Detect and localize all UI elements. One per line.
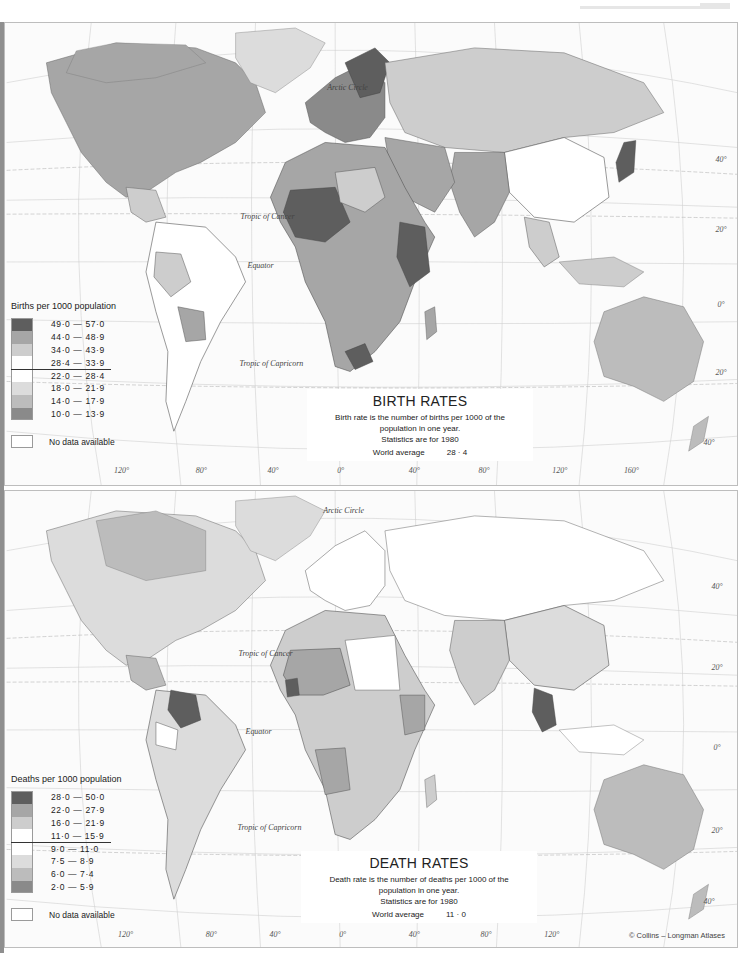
arctic-circle-label: Arctic Circle (322, 506, 364, 515)
svg-text:0°: 0° (714, 743, 722, 752)
equator-label: Equator (247, 261, 275, 270)
legend-item: 28·4 — 33·9 (11, 356, 161, 369)
svg-text:0°: 0° (718, 300, 726, 309)
svg-text:120°: 120° (118, 930, 134, 939)
legend-world-average-divider (11, 369, 111, 370)
australia (594, 297, 704, 402)
tropic-capricorn-label: Tropic of Capricorn (238, 823, 302, 832)
asia-north (385, 48, 664, 153)
legend-item: 6·0 — 7·4 (11, 868, 161, 881)
header-rule (580, 6, 700, 9)
legend-item: 16·0 — 21·9 (11, 817, 161, 830)
legend-item: 10·0 — 13·9 (11, 408, 161, 421)
legend-item: 14·0 — 17·9 (11, 395, 161, 408)
china (504, 138, 609, 223)
svg-text:20°: 20° (716, 368, 728, 377)
svg-text:40°: 40° (267, 466, 279, 475)
tropic-capricorn-label: Tropic of Capricorn (240, 359, 304, 368)
birth-rates-info-box: BIRTH RATES Birth rate is the number of … (307, 389, 533, 461)
copyright-notice: © Collins – Longman Atlases (629, 931, 725, 940)
legend-title: Deaths per 1000 population (11, 774, 161, 784)
svg-text:40°: 40° (712, 582, 724, 591)
birth-rates-map: Arctic Circle Tropic of Cancer Equator T… (4, 22, 738, 486)
svg-text:0°: 0° (337, 466, 345, 475)
death-rates-info-box: DEATH RATES Death rate is the number of … (301, 851, 537, 923)
svg-text:20°: 20° (712, 663, 724, 672)
svg-text:20°: 20° (712, 826, 724, 835)
legend-item: 11·0 — 15·9 (11, 829, 161, 842)
japan (616, 140, 636, 182)
legend-item: 22·0 — 27·9 (11, 804, 161, 817)
svg-text:20°: 20° (716, 225, 728, 234)
legend-no-data: No data available (11, 908, 161, 921)
legend-item: 44·0 — 48·9 (11, 331, 161, 344)
page-number (700, 3, 730, 9)
svg-text:80°: 80° (196, 466, 208, 475)
legend-item: 7·5 — 8·9 (11, 855, 161, 868)
legend-item: 9·0 — 11·0 (11, 842, 161, 855)
tropic-cancer-label: Tropic of Cancer (241, 212, 296, 221)
svg-text:120°: 120° (552, 466, 568, 475)
legend-item: 18·0 — 21·9 (11, 382, 161, 395)
svg-text:80°: 80° (481, 930, 493, 939)
tropic-cancer-label: Tropic of Cancer (239, 649, 294, 658)
map-description: Death rate is the number of deaths per 1… (307, 874, 531, 907)
svg-text:40°: 40° (704, 438, 716, 447)
map-title: BIRTH RATES (313, 393, 527, 409)
svg-text:40°: 40° (409, 466, 421, 475)
svg-text:40°: 40° (716, 155, 728, 164)
page-header (560, 0, 744, 20)
svg-text:80°: 80° (206, 930, 218, 939)
legend-world-average-divider (11, 842, 111, 843)
world-average: World average 28 · 4 (313, 448, 527, 457)
svg-text:120°: 120° (544, 930, 560, 939)
map-title: DEATH RATES (307, 855, 531, 871)
legend-title: Births per 1000 population (11, 301, 161, 311)
svg-text:40°: 40° (704, 897, 716, 906)
svg-text:40°: 40° (409, 930, 421, 939)
legend-item: 49·0 — 57·0 (11, 318, 161, 331)
svg-text:40°: 40° (269, 930, 281, 939)
arctic-circle-label: Arctic Circle (326, 83, 368, 92)
legend-item: 22·0 — 28·4 (11, 369, 161, 382)
svg-text:120°: 120° (114, 466, 130, 475)
svg-text:0°: 0° (339, 930, 347, 939)
equator-label: Equator (245, 727, 273, 736)
legend-item: 2·0 — 5·9 (11, 881, 161, 894)
death-rates-map: Arctic Circle Tropic of Cancer Equator T… (4, 490, 738, 948)
svg-text:80°: 80° (479, 466, 491, 475)
map-description: Birth rate is the number of births per 1… (313, 412, 527, 445)
birth-legend: Births per 1000 population 49·0 — 57·0 4… (11, 301, 161, 448)
legend-item: 34·0 — 43·9 (11, 344, 161, 357)
death-legend: Deaths per 1000 population 28·0 — 50·0 2… (11, 774, 161, 921)
legend-no-data: No data available (11, 435, 161, 448)
svg-text:160°: 160° (624, 466, 640, 475)
world-average: World average 11 · 0 (307, 910, 531, 919)
legend-item: 28·0 — 50·0 (11, 791, 161, 804)
